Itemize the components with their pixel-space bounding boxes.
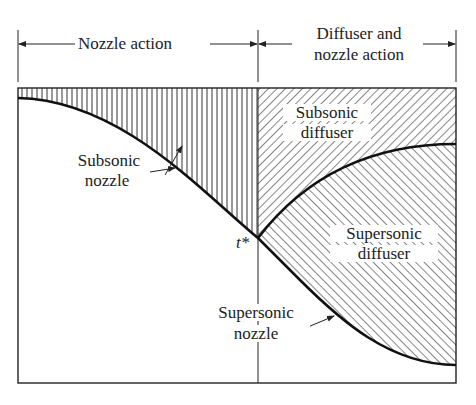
supersonic-nozzle-label-line1: Supersonic (202, 304, 310, 321)
supersonic-nozzle-label-line2: nozzle (202, 325, 310, 342)
supersonic-diffuser-label-line2: diffuser (330, 245, 438, 262)
subsonic-diffuser-label-line1: Subsonic (283, 104, 371, 121)
throat-label: t* (236, 234, 249, 251)
subsonic-diffuser-label-line2: diffuser (283, 124, 371, 141)
diffuser-action-label-line2: nozzle action (293, 46, 425, 63)
supersonic-nozzle-leader (308, 316, 334, 327)
supersonic-diffuser-label-line1: Supersonic (330, 225, 438, 242)
nozzle-action-label: Nozzle action (76, 35, 174, 52)
subsonic-nozzle-label-line2: nozzle (64, 172, 150, 189)
subsonic-nozzle-label-line1: Subsonic (64, 152, 154, 169)
diffuser-action-label-line1: Diffuser and (293, 25, 425, 42)
